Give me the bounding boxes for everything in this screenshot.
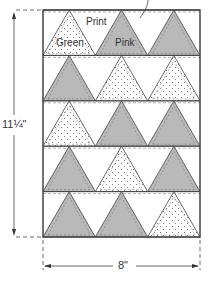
arrow-down-icon (12, 229, 16, 236)
width-dimension: 8" (118, 260, 128, 271)
quilt-diagram (0, 0, 212, 283)
arrow-up-icon (12, 12, 16, 19)
pointer-line (140, 0, 148, 18)
arrow-right-icon (192, 264, 199, 268)
height-dimension: 11¼" (2, 119, 27, 130)
label-pink: Pink (115, 38, 134, 48)
label-print: Print (86, 17, 107, 27)
arrow-left-icon (44, 264, 51, 268)
label-green: Green (56, 38, 84, 48)
